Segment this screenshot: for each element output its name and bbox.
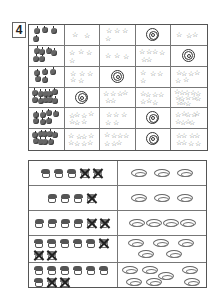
cakes-cell[interactable] — [29, 186, 118, 211]
star-icon: ☆ — [78, 48, 84, 55]
cake-icon — [60, 278, 69, 287]
star-icon: ☆ — [139, 48, 145, 55]
plate-icon — [184, 278, 200, 286]
grid-cell[interactable] — [29, 108, 65, 129]
star-icon: ☆ — [106, 111, 112, 118]
star-icon: ☆ — [104, 140, 110, 147]
apple-icon — [32, 97, 38, 103]
apple-icon — [33, 118, 39, 124]
plate-icon — [122, 266, 138, 274]
star-icon: ☆ — [194, 69, 200, 76]
apple-icon — [53, 111, 59, 117]
plate-icon — [178, 239, 194, 247]
grid-cell[interactable] — [171, 46, 207, 67]
grid-cell[interactable]: ☆☆☆☆☆☆ — [171, 67, 207, 88]
grid-cell[interactable]: ☆☆☆☆ — [136, 67, 172, 88]
plate-icon — [131, 194, 147, 202]
grid-cell[interactable] — [29, 25, 65, 46]
grid-cell[interactable] — [29, 129, 65, 150]
grid-cell[interactable]: ☆☆☆☆☆☆☆ — [65, 108, 101, 129]
plate-icon — [129, 219, 145, 227]
star-icon: ☆ — [123, 132, 129, 139]
grid-cell[interactable]: ☆☆ — [65, 25, 101, 46]
grid-cell[interactable]: ☆☆☆☆ — [100, 25, 136, 46]
star-icon: ☆ — [105, 119, 111, 126]
cakes-cell[interactable] — [29, 236, 118, 263]
plate-icon — [180, 219, 196, 227]
cake-icon — [34, 278, 43, 287]
grid-cell[interactable] — [29, 88, 65, 109]
cake-icon — [47, 278, 56, 287]
plate-icon — [153, 239, 169, 247]
star-icon: ☆ — [150, 70, 156, 77]
cakes-cell[interactable] — [29, 211, 118, 236]
grid-cell[interactable]: ☆☆☆☆☆☆☆ — [136, 88, 172, 109]
grid-cell[interactable] — [29, 46, 65, 67]
star-icon: ☆ — [159, 49, 165, 56]
cross-mark-icon — [59, 277, 70, 288]
cake-icon — [99, 239, 108, 248]
plate-icon — [166, 250, 182, 258]
cake-icon — [48, 194, 57, 203]
star-icon: ☆ — [183, 76, 189, 83]
star-icon: ☆ — [114, 27, 120, 34]
cross-mark-icon — [86, 193, 97, 204]
cakes-cell[interactable] — [29, 263, 118, 287]
grid-cell[interactable]: ☆☆☆ — [100, 46, 136, 67]
plates-cell — [118, 263, 206, 287]
cross-mark-icon — [46, 277, 57, 288]
apple-icon — [50, 69, 56, 75]
apple-icon — [42, 77, 48, 83]
star-icon: ☆ — [176, 31, 182, 38]
cakes-plates-grid — [28, 160, 207, 288]
grid-cell[interactable] — [29, 67, 65, 88]
target-icon — [182, 49, 195, 62]
grid-cell[interactable] — [100, 67, 136, 88]
star-icon: ☆ — [88, 132, 94, 139]
cakes-cell[interactable] — [29, 161, 118, 186]
grid-cell[interactable]: ☆☆☆☆☆☆☆☆☆☆☆☆☆ — [171, 88, 207, 109]
grid-cell[interactable]: ☆☆☆☆ — [65, 46, 101, 67]
cake-icon — [93, 169, 102, 178]
apple-icon — [35, 76, 41, 82]
star-icon: ☆ — [194, 110, 200, 117]
star-icon: ☆ — [140, 69, 146, 76]
grid-cell[interactable]: ☆☆☆☆☆☆☆☆ — [171, 129, 207, 150]
grid-cell[interactable]: ☆☆☆☆☆☆☆☆ — [65, 129, 101, 150]
grid-cell[interactable] — [65, 88, 101, 109]
plate-icon — [142, 266, 158, 274]
cross-mark-icon — [86, 218, 97, 229]
cake-icon — [41, 169, 50, 178]
plates-cell — [118, 236, 206, 263]
cross-mark-icon — [92, 168, 103, 179]
cake-icon — [86, 239, 95, 248]
target-icon — [146, 28, 159, 41]
grid-cell[interactable]: ☆☆☆☆☆☆ — [136, 46, 172, 67]
grid-cell[interactable] — [136, 25, 172, 46]
cross-mark-icon — [99, 218, 110, 229]
grid-cell[interactable]: ☆☆☆☆☆☆☆ — [100, 129, 136, 150]
target-icon — [111, 70, 124, 83]
cake-icon — [47, 266, 56, 275]
star-icon: ☆ — [194, 132, 200, 139]
grid-cell[interactable]: ☆☆☆☆☆☆ — [100, 88, 136, 109]
grid-cell[interactable] — [136, 108, 172, 129]
grid-cell[interactable]: ☆☆☆☆☆ — [65, 67, 101, 88]
apple-icon — [40, 119, 46, 125]
cake-icon — [87, 194, 96, 203]
star-icon: ☆ — [140, 77, 146, 84]
star-icon: ☆ — [87, 70, 93, 77]
grid-cell[interactable]: ☆☆☆☆☆ — [100, 108, 136, 129]
grid-cell[interactable] — [136, 129, 172, 150]
grid-cell[interactable]: ☆☆☆☆☆☆☆☆☆ — [171, 108, 207, 129]
plate-icon — [146, 219, 162, 227]
cake-icon — [34, 266, 43, 275]
cross-mark-icon — [33, 250, 44, 261]
cake-icon — [73, 266, 82, 275]
star-icon: ☆ — [152, 48, 158, 55]
star-icon: ☆ — [185, 100, 191, 107]
grid-cell[interactable]: ☆☆☆ — [171, 25, 207, 46]
cake-icon — [74, 219, 83, 228]
star-icon: ☆ — [105, 35, 111, 42]
apple-icon — [33, 56, 39, 62]
